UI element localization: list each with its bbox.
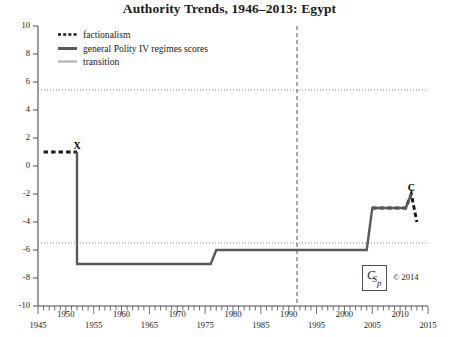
x-tick-label: 2010 — [380, 309, 420, 319]
copyright-text: © 2014 — [393, 272, 419, 282]
legend-item-polity: general Polity IV regimes scores — [57, 42, 208, 56]
legend-swatch-transition — [57, 56, 78, 67]
x-tick-label: 1970 — [157, 309, 197, 319]
y-tick-label: 0 — [2, 160, 30, 170]
x-tick-label: 1975 — [185, 320, 225, 330]
x-tick-label: 1985 — [241, 320, 281, 330]
x-tick-label: 1950 — [46, 309, 86, 319]
legend-item-transition: transition — [57, 55, 208, 69]
y-tick-label: -8 — [2, 272, 30, 282]
series-line — [77, 152, 411, 264]
x-tick-label: 1965 — [129, 320, 169, 330]
legend-swatch-factionalism — [57, 29, 78, 40]
csp-logo-icon: C S p — [363, 266, 388, 292]
svg-text:p: p — [376, 278, 382, 288]
chart-legend: factionalism general Polity IV regimes s… — [57, 28, 208, 69]
x-tick-label: 1980 — [213, 309, 253, 319]
data-series-layer — [44, 152, 417, 264]
legend-item-factionalism: factionalism — [57, 28, 208, 42]
y-tick-label: -4 — [2, 216, 30, 226]
y-tick-label: 6 — [2, 76, 30, 86]
y-axis-ticks — [33, 26, 38, 306]
y-tick-label: 10 — [2, 20, 30, 30]
x-tick-label: 1990 — [269, 309, 309, 319]
legend-swatch-polity — [57, 43, 78, 54]
x-tick-label: 1960 — [102, 309, 142, 319]
y-tick-label: 8 — [2, 48, 30, 58]
x-tick-label: 2005 — [352, 320, 392, 330]
x-tick-label: 2000 — [324, 309, 364, 319]
annotation-label-x: X — [74, 140, 81, 151]
authority-trends-chart: Authority Trends, 1946–2013: Egypt — [0, 0, 459, 337]
x-tick-label: 1995 — [297, 320, 337, 330]
legend-label-polity: general Polity IV regimes scores — [83, 42, 208, 56]
y-tick-label: 2 — [2, 132, 30, 142]
y-tick-label: 4 — [2, 104, 30, 114]
legend-label-factionalism: factionalism — [83, 28, 130, 42]
x-tick-label: 2015 — [408, 320, 448, 330]
y-tick-label: -6 — [2, 244, 30, 254]
annotation-label-c: C — [408, 182, 415, 193]
csp-logo-box: C S p — [362, 265, 387, 291]
y-tick-label: -10 — [2, 300, 30, 310]
x-tick-label: 1945 — [18, 320, 58, 330]
legend-label-transition: transition — [83, 55, 119, 69]
x-tick-label: 1955 — [74, 320, 114, 330]
y-tick-label: -2 — [2, 188, 30, 198]
